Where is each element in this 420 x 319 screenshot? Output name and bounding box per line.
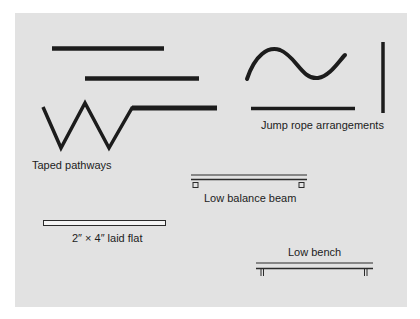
- balance-beam-group: [191, 175, 307, 188]
- label-jump-rope: Jump rope arrangements: [261, 120, 384, 131]
- label-low-bench: Low bench: [288, 247, 341, 258]
- beam-support-right: [299, 183, 304, 188]
- taped-pathways-group: [43, 49, 217, 149]
- two-by-four-group: [44, 221, 166, 226]
- two-by-four-board: [44, 221, 166, 226]
- label-two-by-four: 2″ × 4″ laid flat: [72, 233, 142, 244]
- label-balance-beam: Low balance beam: [204, 193, 296, 204]
- label-taped-pathways: Taped pathways: [32, 160, 112, 171]
- jump-rope-group: [247, 42, 383, 113]
- low-bench-group: [256, 263, 373, 276]
- jump-rope-wave: [247, 49, 345, 79]
- beam-support-left: [193, 183, 198, 188]
- diagram-canvas: Taped pathways Jump rope arrangements Lo…: [0, 0, 420, 319]
